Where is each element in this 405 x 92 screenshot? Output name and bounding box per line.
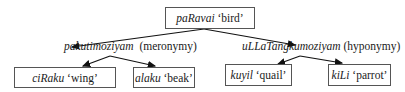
node-ciraku: ciRaku ‘wing’ <box>14 67 116 88</box>
hyponymy-term: uLLaTangkumoziyam <box>242 40 341 52</box>
kuyil-gloss: ‘quail’ <box>256 69 287 81</box>
root-node: paRavai ‘bird’ <box>165 7 255 29</box>
ciraku-gloss: ‘wing’ <box>67 72 98 84</box>
node-kili: kiLi ‘parrot’ <box>328 64 391 86</box>
kili-term: kiLi <box>332 69 350 81</box>
alaku-gloss: ‘beak’ <box>164 72 193 84</box>
meronymy-relation: (meronymy) <box>139 40 196 52</box>
meronymy-term: pakutimoziyam <box>64 40 134 52</box>
arrow-hyponymy-to-kuyil <box>278 56 300 64</box>
meronymy-label: pakutimoziyam (meronymy) <box>64 40 197 52</box>
kuyil-term: kuyil <box>231 69 253 81</box>
root-term: paRavai <box>176 12 214 24</box>
arrow-meronymy-to-alaku <box>110 56 155 66</box>
node-kuyil: kuyil ‘quail’ <box>225 64 292 86</box>
hyponymy-label: uLLaTangkumoziyam (hyponymy) <box>242 40 400 52</box>
root-gloss: ‘bird’ <box>218 12 244 24</box>
alaku-term: alaku <box>135 72 161 84</box>
arrow-meronymy-to-ciraku <box>83 56 110 66</box>
arrow-hyponymy-to-kili <box>300 56 342 63</box>
ciraku-term: ciRaku <box>32 72 64 84</box>
node-alaku: alaku ‘beak’ <box>133 67 195 88</box>
kili-gloss: ‘parrot’ <box>352 69 387 81</box>
hyponymy-relation: (hyponymy) <box>344 40 401 52</box>
